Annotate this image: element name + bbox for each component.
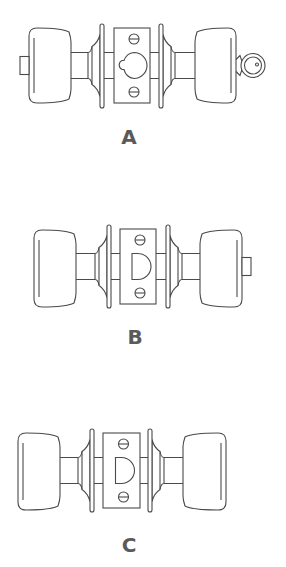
- right-knob: [183, 433, 226, 510]
- right-collar: [152, 440, 164, 502]
- right-neck: [164, 458, 183, 484]
- left-rose: [90, 429, 94, 512]
- lockset-c: [18, 429, 226, 512]
- right-rose: [148, 429, 152, 512]
- left-collar: [78, 440, 90, 502]
- figure-label-c: C: [109, 535, 149, 555]
- lockset-c-drawing: [0, 0, 286, 567]
- lockset-figure-c: C: [0, 0, 286, 567]
- left-neck: [60, 458, 78, 484]
- left-knob: [18, 433, 60, 510]
